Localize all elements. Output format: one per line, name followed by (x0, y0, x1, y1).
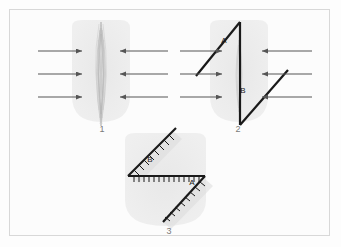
panel-3-group (125, 128, 213, 229)
panel-2-label-b: B (237, 86, 249, 95)
panel-2-label-a: A (218, 36, 230, 45)
panel-3-label-a: A (186, 178, 198, 187)
panel-2-group (180, 20, 312, 125)
panel-3-label-b: B (144, 155, 156, 164)
panel-2-number: 2 (230, 124, 246, 134)
diagram-canvas (0, 0, 341, 247)
diagram-page: 1 2 3 A B B A (0, 0, 341, 247)
panel-3-number: 3 (161, 226, 177, 236)
panel-1-group (38, 20, 168, 126)
panel-1-number: 1 (94, 124, 110, 134)
